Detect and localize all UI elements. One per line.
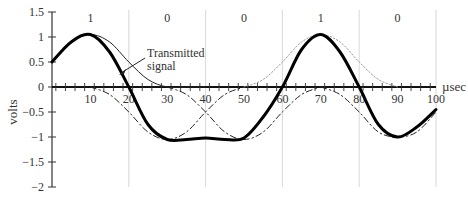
y-tick-label: 0	[38, 80, 44, 94]
x-tick-label: 30	[161, 92, 173, 106]
transmitted-signal-annotation: Transmittedsignal	[119, 46, 205, 75]
pulse-signal-chart: 1.510.50−0.5−1−1.5−2 1020304050607080901…	[0, 0, 468, 208]
bit-labels: 10010	[87, 11, 400, 25]
annotation-text: Transmitted	[147, 46, 205, 60]
y-tick-label: −1	[31, 130, 44, 144]
bit-label: 1	[87, 11, 93, 25]
x-axis-label: µsec	[442, 79, 466, 94]
x-axis: 102030405060708090100	[52, 83, 445, 106]
bit-label: 0	[164, 11, 170, 25]
y-tick-label: −2	[31, 180, 44, 194]
x-tick-label: 100	[427, 92, 445, 106]
annotation-text: signal	[147, 59, 176, 73]
bit-label: 0	[395, 11, 401, 25]
y-axis: 1.510.50−0.5−1−1.5−2	[22, 5, 56, 194]
x-tick-label: 10	[84, 92, 96, 106]
bit-label: 1	[318, 11, 324, 25]
x-tick-label: 50	[238, 92, 250, 106]
series-line	[321, 87, 436, 137]
series-line	[244, 35, 398, 88]
x-tick-label: 70	[315, 92, 327, 106]
y-tick-label: −0.5	[22, 105, 44, 119]
y-tick-label: 1.5	[29, 5, 44, 19]
y-tick-label: −1.5	[22, 155, 44, 169]
bit-label: 0	[241, 11, 247, 25]
y-axis-label: volts	[5, 99, 20, 124]
x-tick-label: 90	[392, 92, 404, 106]
x-tick-label: 40	[200, 92, 212, 106]
y-tick-label: 1	[38, 30, 44, 44]
y-tick-label: 0.5	[29, 55, 44, 69]
